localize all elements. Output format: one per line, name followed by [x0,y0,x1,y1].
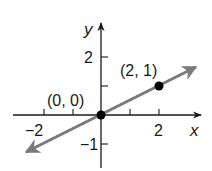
tick-label-y-2: 2 [84,49,93,66]
tick-label-x-2: 2 [154,122,163,139]
point-2-1 [155,82,164,91]
tick-label-x-neg2: −2 [25,122,43,139]
y-ticks [101,57,108,144]
point-label-2-1: (2, 1) [120,62,157,79]
point-label-origin: (0, 0) [47,92,84,109]
point-origin [97,111,106,120]
y-axis-label: y [83,20,94,39]
line-y-equals-half-x [26,67,196,152]
tick-label-y-neg1: −1 [80,136,98,153]
graph: y x −2 2 2 −1 (0, 0) (2, 1) [0,0,212,171]
x-axis-label: x [189,121,199,140]
